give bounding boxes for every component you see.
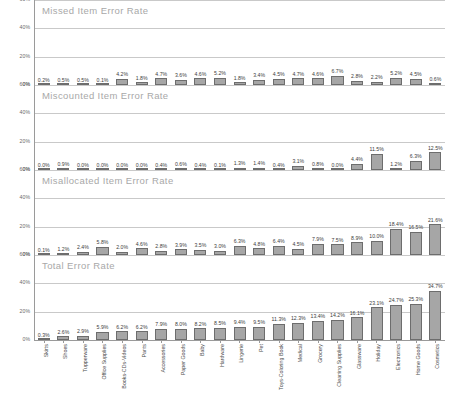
bar[interactable]: [410, 161, 422, 170]
bar-cell[interactable]: 6.7%: [328, 0, 348, 85]
bar-cell[interactable]: 6.3%: [406, 85, 426, 170]
bar-cell[interactable]: 4.7%: [289, 0, 309, 85]
bar-cell[interactable]: 4.5%: [289, 170, 309, 255]
bar-cell[interactable]: 2.2%: [367, 0, 387, 85]
bar-cell[interactable]: 0.0%: [93, 85, 113, 170]
bar-cell[interactable]: 0.0%: [34, 85, 54, 170]
bar-cell[interactable]: 5.9%: [93, 255, 113, 340]
bar-cell[interactable]: 2.0%: [112, 170, 132, 255]
bar[interactable]: [253, 248, 265, 255]
bar-cell[interactable]: 1.8%: [230, 0, 250, 85]
bar[interactable]: [390, 78, 402, 85]
bar-cell[interactable]: 2.6%: [54, 255, 74, 340]
bar-cell[interactable]: 6.3%: [230, 170, 250, 255]
bar-cell[interactable]: 1.2%: [386, 85, 406, 170]
bar-cell[interactable]: 5.8%: [93, 170, 113, 255]
bar-cell[interactable]: 3.9%: [171, 170, 191, 255]
bar[interactable]: [175, 329, 187, 340]
bar-cell[interactable]: 7.9%: [308, 170, 328, 255]
bar[interactable]: [331, 320, 343, 340]
bar[interactable]: [194, 328, 206, 340]
bar-cell[interactable]: 0.6%: [426, 0, 446, 85]
bar-cell[interactable]: 14.2%: [328, 255, 348, 340]
bar[interactable]: [429, 224, 441, 255]
bar[interactable]: [155, 78, 167, 85]
bar-cell[interactable]: 3.0%: [210, 170, 230, 255]
bar-cell[interactable]: 0.0%: [328, 85, 348, 170]
bar-cell[interactable]: 2.8%: [151, 170, 171, 255]
bar-cell[interactable]: 0.5%: [54, 0, 74, 85]
bar-cell[interactable]: 11.5%: [367, 85, 387, 170]
bar-cell[interactable]: 0.6%: [171, 85, 191, 170]
bar[interactable]: [136, 331, 148, 340]
bar-cell[interactable]: 18.4%: [386, 170, 406, 255]
bar-cell[interactable]: 0.1%: [210, 85, 230, 170]
bar-cell[interactable]: 11.3%: [269, 255, 289, 340]
bar-cell[interactable]: 4.4%: [347, 85, 367, 170]
bar-cell[interactable]: 9.5%: [249, 255, 269, 340]
bar-cell[interactable]: 0.4%: [269, 85, 289, 170]
bar-cell[interactable]: 0.0%: [73, 85, 93, 170]
bar-cell[interactable]: 0.3%: [34, 255, 54, 340]
bar-cell[interactable]: 25.3%: [406, 255, 426, 340]
bar[interactable]: [96, 332, 108, 340]
bar[interactable]: [292, 78, 304, 85]
bar-cell[interactable]: 1.2%: [54, 170, 74, 255]
bar-cell[interactable]: 0.9%: [54, 85, 74, 170]
bar-cell[interactable]: 8.0%: [171, 255, 191, 340]
bar-cell[interactable]: 0.0%: [132, 85, 152, 170]
bar-cell[interactable]: 4.5%: [406, 0, 426, 85]
bar-cell[interactable]: 8.5%: [210, 255, 230, 340]
bar-cell[interactable]: 4.5%: [269, 0, 289, 85]
bar[interactable]: [292, 323, 304, 340]
bar-cell[interactable]: 3.4%: [249, 0, 269, 85]
bar-cell[interactable]: 3.5%: [191, 170, 211, 255]
bar[interactable]: [331, 76, 343, 85]
bar[interactable]: [96, 247, 108, 255]
bar[interactable]: [410, 304, 422, 340]
bar-cell[interactable]: 12.5%: [426, 85, 446, 170]
bar-cell[interactable]: 9.4%: [230, 255, 250, 340]
bar[interactable]: [273, 324, 285, 340]
bar-cell[interactable]: 0.8%: [308, 85, 328, 170]
bar-cell[interactable]: 2.9%: [73, 255, 93, 340]
bar[interactable]: [116, 331, 128, 340]
bar-cell[interactable]: 6.2%: [132, 255, 152, 340]
bar[interactable]: [390, 229, 402, 255]
bar-cell[interactable]: 16.1%: [347, 255, 367, 340]
bar-cell[interactable]: 23.1%: [367, 255, 387, 340]
bar-cell[interactable]: 4.6%: [191, 0, 211, 85]
bar-cell[interactable]: 0.1%: [93, 0, 113, 85]
bar[interactable]: [253, 327, 265, 340]
bar[interactable]: [331, 244, 343, 255]
bar-cell[interactable]: 5.2%: [210, 0, 230, 85]
bar-cell[interactable]: 4.6%: [308, 0, 328, 85]
bar-cell[interactable]: 21.6%: [426, 170, 446, 255]
bar[interactable]: [234, 327, 246, 340]
bar-cell[interactable]: 1.3%: [230, 85, 250, 170]
bar[interactable]: [371, 307, 383, 340]
bar-cell[interactable]: 4.7%: [151, 0, 171, 85]
bar-cell[interactable]: 8.2%: [191, 255, 211, 340]
bar[interactable]: [214, 328, 226, 340]
bar[interactable]: [410, 232, 422, 255]
bar-cell[interactable]: 34.7%: [426, 255, 446, 340]
bar[interactable]: [429, 152, 441, 170]
bar[interactable]: [429, 291, 441, 340]
bar-cell[interactable]: 8.9%: [347, 170, 367, 255]
bar[interactable]: [234, 246, 246, 255]
bar-cell[interactable]: 4.8%: [249, 170, 269, 255]
bar[interactable]: [390, 305, 402, 340]
bar-cell[interactable]: 1.4%: [249, 85, 269, 170]
bar-cell[interactable]: 6.4%: [269, 170, 289, 255]
bar-cell[interactable]: 6.2%: [112, 255, 132, 340]
bar-cell[interactable]: 0.1%: [34, 170, 54, 255]
bar[interactable]: [214, 78, 226, 85]
bar-cell[interactable]: 0.4%: [151, 85, 171, 170]
bar[interactable]: [155, 329, 167, 340]
bar[interactable]: [273, 246, 285, 255]
bar[interactable]: [312, 244, 324, 255]
bar-cell[interactable]: 2.8%: [347, 0, 367, 85]
bar-cell[interactable]: 0.4%: [191, 85, 211, 170]
bar-cell[interactable]: 0.2%: [34, 0, 54, 85]
